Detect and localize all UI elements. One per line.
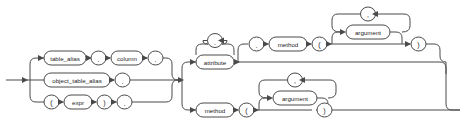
node-rparen-expr-label: ) [103,99,105,107]
node-dot-before-method-label: . [256,42,258,49]
node-dot-1-label: . [98,56,100,63]
right-row-method: method ( argument , ) [190,73,460,117]
left-row-object-table-alias: object_table_alias . [40,73,182,87]
node-dot-4-label: . [124,100,126,107]
node-attribute-label: attribute [204,59,227,66]
node-argument-top-label: argument [355,29,381,36]
node-expr-label: expr [72,99,84,106]
railroad-diagram-svg: table_alias . column . object_table_alia… [0,0,466,126]
node-method-bottom-label: method [205,107,226,114]
node-rparen-bottom-label: ) [323,107,325,115]
node-argument-bottom-label: argument [282,95,308,102]
syntax-diagram-canvas: table_alias . column . object_table_alia… [0,0,466,126]
node-rparen-top-label: ) [417,41,419,49]
left-branch-fork [30,58,40,102]
entry-rail [6,77,30,83]
node-dot-attribute-loop-label: . [214,39,216,46]
node-comma-top-label: , [367,11,369,18]
right-branch-fork [178,62,192,110]
node-object-table-alias-label: object_table_alias [52,77,102,84]
node-comma-bottom-label: , [294,77,296,84]
node-dot-2-label: . [155,56,157,63]
node-method-top-label: method [278,41,299,48]
node-dot-3-label: . [122,78,124,85]
node-column-label: column [117,55,138,62]
exit-rail [446,62,460,110]
node-table-alias-label: table_alias [50,55,80,62]
right-row-attribute: attribute . . method ( argument [190,7,446,74]
